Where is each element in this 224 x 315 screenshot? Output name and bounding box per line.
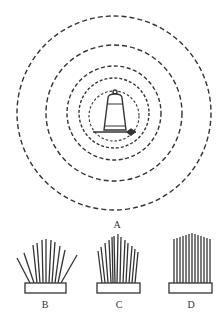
brush-b — [17, 239, 77, 293]
label-d: D — [181, 299, 201, 310]
bell-icon — [93, 90, 136, 135]
label-b: B — [35, 299, 55, 310]
diagram-figure — [0, 0, 224, 315]
brush-d — [169, 233, 212, 293]
label-c: C — [109, 299, 129, 310]
label-a: A — [107, 219, 127, 230]
brush-c — [97, 234, 140, 293]
